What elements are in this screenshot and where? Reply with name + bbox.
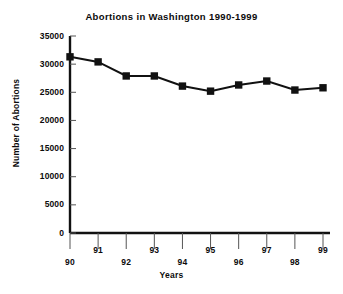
data-point-marker bbox=[291, 86, 298, 93]
data-point-marker bbox=[235, 81, 242, 88]
data-point-marker bbox=[123, 72, 130, 79]
line-chart: Abortions in Washington 1990-1999 Number… bbox=[0, 0, 343, 294]
data-point-marker bbox=[94, 58, 101, 65]
data-point-marker bbox=[66, 53, 73, 60]
data-point-marker bbox=[319, 84, 326, 91]
x-axis-ticks bbox=[70, 233, 323, 249]
plot-area bbox=[0, 0, 343, 294]
data-point-marker bbox=[151, 72, 158, 79]
data-point-marker bbox=[263, 77, 270, 84]
axes bbox=[70, 36, 330, 233]
data-point-marker bbox=[207, 87, 214, 94]
data-series-line bbox=[70, 57, 323, 91]
data-point-marker bbox=[179, 82, 186, 89]
